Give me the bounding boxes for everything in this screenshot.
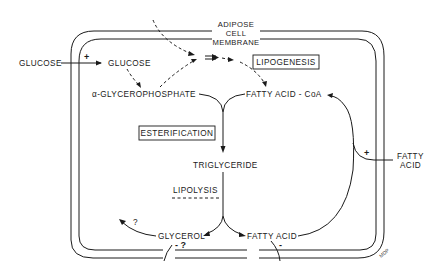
- lipogenesis-box: LIPOGENESIS: [253, 55, 319, 69]
- membrane-label-line2: CELL: [226, 29, 247, 38]
- membrane-label-line1: ADIPOSE: [218, 20, 255, 29]
- lipogenesis-label: LIPOGENESIS: [256, 58, 316, 67]
- lipolysis-path-fatty-acid: [223, 216, 243, 235]
- fatty-acid-recycle-path: [298, 96, 354, 236]
- glycerol-fate-arrow: [122, 222, 156, 236]
- fatty-acid-coa-label: FATTY ACID - CoA: [246, 90, 322, 99]
- arrowhead-icon: [239, 232, 246, 237]
- double-arrowhead-icon: [212, 54, 219, 61]
- glycerol-fate-sign: ?: [133, 218, 138, 227]
- glucose-inside-label: GLUCOSE: [108, 59, 151, 68]
- alpha-glycerophosphate-label: α-GLYCEROPHOSPHATE: [92, 90, 196, 99]
- esterification-label: ESTERIFICATION: [141, 129, 214, 138]
- lipolysis-path-glycerol: [206, 216, 223, 234]
- esterification-box: ESTERIFICATION: [139, 126, 215, 140]
- glucose-outside-label: GLUCOSE: [19, 59, 62, 68]
- arrowhead-icon: [96, 61, 102, 66]
- fatty-acid-outside-label-line2: ACID: [400, 161, 421, 170]
- arrowhead-icon: [262, 81, 267, 87]
- fatty-acid-efflux-sign: -: [279, 240, 282, 250]
- membrane-label-line3: MEMBRANE: [212, 38, 259, 47]
- adipose-cell-diagram: ADIPOSE CELL MEMBRANE GLUCOSE + GLUCOSE …: [0, 0, 438, 261]
- arrowhead-icon: [221, 146, 226, 153]
- membrane-label: ADIPOSE CELL MEMBRANE: [212, 20, 259, 47]
- triglyceride-label: TRIGLYCERIDE: [193, 161, 258, 170]
- glycerol-efflux-sign: - ?: [175, 240, 186, 250]
- fatty-acid-outside-label-line1: FATTY: [397, 152, 424, 161]
- arrowhead-icon: [188, 51, 195, 56]
- glucose-uptake-sign: +: [84, 52, 89, 62]
- fatty-acid-inside-label: FATTY ACID: [247, 232, 297, 241]
- arrowhead-icon: [228, 57, 234, 62]
- glycerol-efflux-line: [164, 245, 172, 261]
- arrowhead-icon: [327, 93, 333, 98]
- esterification-path-right: [223, 94, 245, 112]
- fatty-acid-uptake-line: [353, 143, 393, 160]
- fatty-acid-uptake-sign: +: [364, 148, 369, 158]
- lipolysis-label: LIPOLYSIS: [173, 186, 218, 195]
